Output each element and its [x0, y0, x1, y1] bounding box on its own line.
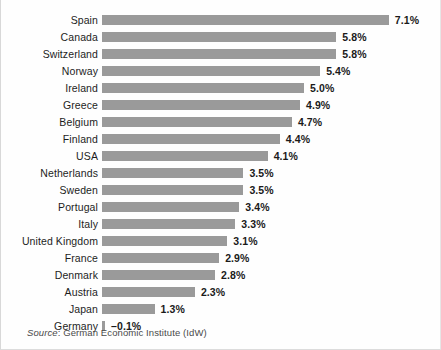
bar-category-label: Sweden — [1, 185, 98, 196]
bar-fill — [102, 15, 389, 25]
source-note: Source: German Economic Institute (IdW) — [27, 327, 207, 338]
bar-value-label: 4.7% — [298, 116, 322, 128]
bar-category-label: Belgium — [1, 117, 98, 128]
bar-fill — [102, 117, 292, 127]
bar-row: USA4.1% — [1, 148, 441, 165]
bar-category-label: Japan — [1, 304, 98, 315]
bar-fill — [102, 185, 243, 195]
bar-fill — [102, 83, 304, 93]
bar-row: Canada5.8% — [1, 29, 441, 46]
bar-track: 1.3% — [98, 301, 441, 318]
bar-row: Italy3.3% — [1, 216, 441, 233]
bar-fill — [102, 100, 300, 110]
bar-fill — [102, 151, 268, 161]
bar-track: 4.7% — [98, 114, 441, 131]
bar-track: 5.8% — [98, 29, 441, 46]
bar-track: 4.4% — [98, 131, 441, 148]
bar-value-label: 4.9% — [306, 99, 330, 111]
bar-fill — [102, 304, 155, 314]
bar-value-label: 3.5% — [249, 184, 273, 196]
bar-row: Portugal3.4% — [1, 199, 441, 216]
bar-category-label: Canada — [1, 32, 98, 43]
bar-category-label: Netherlands — [1, 168, 98, 179]
bar-value-label: 2.8% — [221, 269, 245, 281]
source-text: German Economic Institute (IdW) — [63, 327, 207, 338]
bar-category-label: France — [1, 253, 98, 264]
bar-track: 4.1% — [98, 148, 441, 165]
bar-fill — [102, 49, 336, 59]
bar-value-label: 5.0% — [310, 82, 334, 94]
bar-fill — [102, 270, 215, 280]
bar-category-label: Denmark — [1, 270, 98, 281]
bar-fill — [102, 287, 195, 297]
bar-row: Norway5.4% — [1, 63, 441, 80]
bar-value-label: 4.4% — [286, 133, 310, 145]
bar-fill — [102, 134, 280, 144]
bar-value-label: 3.5% — [249, 167, 273, 179]
bar-category-label: Greece — [1, 100, 98, 111]
bar-value-label: 7.1% — [395, 14, 419, 26]
bar-fill — [102, 168, 243, 178]
bar-track: 5.8% — [98, 46, 441, 63]
bar-row: Spain7.1% — [1, 12, 441, 29]
bar-track: 5.4% — [98, 63, 441, 80]
bar-track: 3.3% — [98, 216, 441, 233]
bar-fill — [102, 66, 320, 76]
bar-track: 3.5% — [98, 182, 441, 199]
bar-row: Switzerland5.8% — [1, 46, 441, 63]
bar-row: Japan1.3% — [1, 301, 441, 318]
bar-row: Belgium4.7% — [1, 114, 441, 131]
bar-track: 7.1% — [98, 12, 441, 29]
bar-track: 5.0% — [98, 80, 441, 97]
bar-row: Finland4.4% — [1, 131, 441, 148]
bar-track: 3.4% — [98, 199, 441, 216]
bar-category-label: Spain — [1, 15, 98, 26]
bar-category-label: Norway — [1, 66, 98, 77]
bar-category-label: USA — [1, 151, 98, 162]
bar-fill — [102, 202, 239, 212]
bar-value-label: 1.3% — [161, 303, 185, 315]
bar-category-label: Finland — [1, 134, 98, 145]
bar-category-label: Portugal — [1, 202, 98, 213]
bar-track: 3.5% — [98, 165, 441, 182]
bar-fill — [102, 236, 227, 246]
bar-category-label: United Kingdom — [1, 236, 98, 247]
bar-row: Austria2.3% — [1, 284, 441, 301]
bar-value-label: 3.4% — [245, 201, 269, 213]
bar-row: United Kingdom3.1% — [1, 233, 441, 250]
bar-value-label: 3.3% — [241, 218, 265, 230]
bar-track: 2.8% — [98, 267, 441, 284]
chart-plot-area: Spain7.1%Canada5.8%Switzerland5.8%Norway… — [1, 12, 441, 335]
bar-row: Denmark2.8% — [1, 267, 441, 284]
bar-track: 4.9% — [98, 97, 441, 114]
bar-category-label: Italy — [1, 219, 98, 230]
bar-value-label: 4.1% — [274, 150, 298, 162]
bar-row: France2.9% — [1, 250, 441, 267]
bar-row: Greece4.9% — [1, 97, 441, 114]
bar-value-label: 2.9% — [225, 252, 249, 264]
bar-fill — [102, 32, 336, 42]
bar-value-label: 3.1% — [233, 235, 257, 247]
bar-value-label: 5.8% — [342, 48, 366, 60]
bar-track: 2.9% — [98, 250, 441, 267]
bar-fill — [102, 253, 219, 263]
bar-category-label: Ireland — [1, 83, 98, 94]
bar-row: Netherlands3.5% — [1, 165, 441, 182]
bar-row: Ireland5.0% — [1, 80, 441, 97]
bar-track: 2.3% — [98, 284, 441, 301]
bar-value-label: 5.4% — [326, 65, 350, 77]
bar-fill — [102, 219, 235, 229]
bar-value-label: 2.3% — [201, 286, 225, 298]
bar-category-label: Austria — [1, 287, 98, 298]
bar-chart-figure: Spain7.1%Canada5.8%Switzerland5.8%Norway… — [0, 0, 441, 350]
source-label: Source — [27, 327, 58, 338]
bar-category-label: Switzerland — [1, 49, 98, 60]
bar-row: Sweden3.5% — [1, 182, 441, 199]
bar-value-label: 5.8% — [342, 31, 366, 43]
bar-track: 3.1% — [98, 233, 441, 250]
